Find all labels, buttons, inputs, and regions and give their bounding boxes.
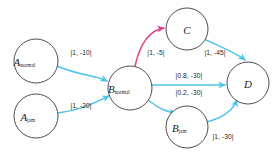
graph-svg: AnormalAjamBnormalBjamCD |1, -10||1, -20… xyxy=(0,0,277,152)
node-label-subscript: jam xyxy=(26,117,36,123)
edge-label: |1, -45| xyxy=(204,49,225,57)
node-b-normal[interactable]: Bnormal xyxy=(108,66,152,110)
node-a-jam[interactable]: Ajam xyxy=(14,94,58,138)
edge-label: |1, -20| xyxy=(70,102,91,110)
node-layer: AnormalAjamBnormalBjamCD xyxy=(12,8,269,148)
edge-label: |1, -10| xyxy=(70,49,91,57)
edge-b-normal-to-c xyxy=(135,28,164,66)
node-label-subscript: normal xyxy=(115,89,131,95)
diagram-canvas: AnormalAjamBnormalBjamCD |1, -10||1, -20… xyxy=(0,0,277,152)
node-label-base: C xyxy=(183,24,191,36)
edge-label: |1, -5| xyxy=(147,49,165,57)
node-label-subscript: normal xyxy=(20,62,36,68)
edge-a-normal-to-b-normal xyxy=(57,66,107,81)
edge-label: |0.8, -30| xyxy=(176,72,203,80)
node-b-jam[interactable]: Bjam xyxy=(166,106,208,148)
edge-label: |0.2, -30| xyxy=(176,89,203,97)
node-label: D xyxy=(243,78,252,90)
edge-label-layer: |1, -10||1, -20||1, -5||1, -45||0.8, -30… xyxy=(70,49,233,141)
edge-b-normal-to-b-jam xyxy=(147,99,176,113)
edge-label: |1, -30| xyxy=(212,133,233,141)
node-label-subscript: jam xyxy=(178,128,188,134)
node-label: C xyxy=(183,24,191,36)
node-d[interactable]: D xyxy=(227,62,269,104)
edge-b-jam-to-d xyxy=(207,100,237,122)
node-label-base: D xyxy=(243,78,252,90)
node-a-normal[interactable]: Anormal xyxy=(12,39,58,83)
node-c[interactable]: C xyxy=(166,8,208,50)
